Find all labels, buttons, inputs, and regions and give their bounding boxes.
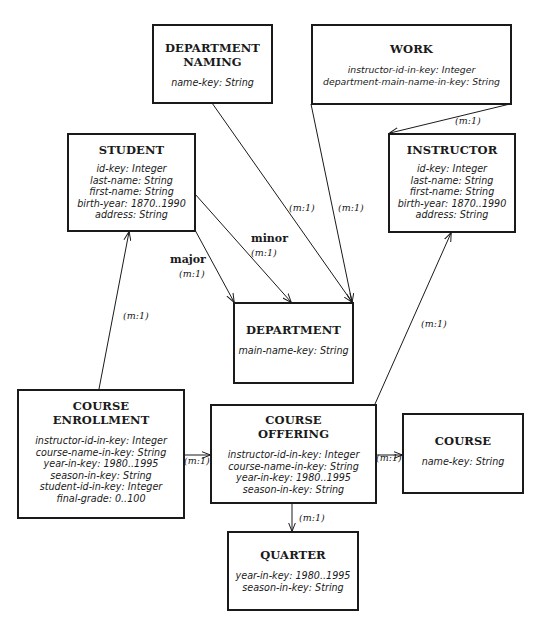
entity-attributes: name-key: String <box>154 77 271 89</box>
attribute: year-in-key: 1980..1995 <box>19 458 183 470</box>
deptnaming-to-department-arrow <box>212 103 352 302</box>
entity-department[interactable]: DEPARTMENT main-name-key: String <box>233 302 354 384</box>
attribute: first-name: String <box>390 186 514 198</box>
entity-title: COURSE OFFERING <box>212 413 375 441</box>
attribute: year-in-key: 1980..1995 <box>229 570 357 582</box>
attribute: birth-year: 1870..1990 <box>69 198 194 210</box>
entity-attributes: id-key: Integer last-name: String first-… <box>390 163 514 221</box>
attribute: instructor-id-in-key: Integer <box>212 449 375 461</box>
entity-course-offering[interactable]: COURSE OFFERING instructor-id-in-key: In… <box>210 404 377 504</box>
cardinality-label: (m:1) <box>455 115 481 126</box>
attribute: last-name: String <box>390 175 514 187</box>
cardinality-label: (m:1) <box>289 202 315 213</box>
entity-title: COURSE ENROLLMENT <box>19 399 183 427</box>
student-major-arrow <box>195 230 234 302</box>
cardinality-label: (m:1) <box>299 512 325 523</box>
attribute: year-in-key: 1980..1995 <box>212 472 375 484</box>
entity-title: DEPARTMENT <box>235 323 352 337</box>
work-to-instructor-arrow <box>390 104 510 133</box>
cardinality-label: (m:1) <box>123 310 149 321</box>
entity-work[interactable]: WORK instructor-id-in-key: Integer depar… <box>311 24 512 105</box>
cardinality-label: (m:1) <box>251 247 277 258</box>
attribute: name-key: String <box>404 456 522 468</box>
entity-attributes: name-key: String <box>404 456 522 468</box>
attribute: season-in-key: String <box>212 484 375 496</box>
attribute: last-name: String <box>69 175 194 187</box>
entity-course-enrollment[interactable]: COURSE ENROLLMENT instructor-id-in-key: … <box>17 389 185 519</box>
entity-course[interactable]: COURSE name-key: String <box>402 413 524 494</box>
entity-title: COURSE <box>404 434 522 448</box>
entity-student[interactable]: STUDENT id-key: Integer last-name: Strin… <box>67 133 196 232</box>
entity-title: STUDENT <box>69 143 194 157</box>
entity-department-naming[interactable]: DEPARTMENT NAMING name-key: String <box>152 24 273 104</box>
cardinality-label: (m:1) <box>421 318 447 329</box>
entity-title: WORK <box>313 42 510 56</box>
attribute: instructor-id-in-key: Integer <box>19 435 183 447</box>
entity-attributes: instructor-id-in-key: Integer department… <box>313 64 510 87</box>
attribute: course-name-in-key: String <box>212 461 375 473</box>
attribute: address: String <box>390 209 514 221</box>
cardinality-label: (m:1) <box>376 452 402 463</box>
cardinality-label: (m:1) <box>338 202 364 213</box>
entity-title: DEPARTMENT NAMING <box>154 41 271 69</box>
entity-attributes: id-key: Integer last-name: String first-… <box>69 163 194 221</box>
cardinality-label: (m:1) <box>179 268 205 279</box>
attribute: student-id-in-key: Integer <box>19 481 183 493</box>
attribute: final-grade: 0..100 <box>19 493 183 505</box>
attribute: first-name: String <box>69 186 194 198</box>
entity-quarter[interactable]: QUARTER year-in-key: 1980..1995 season-i… <box>227 531 359 611</box>
role-label-major: major <box>170 254 206 266</box>
attribute: id-key: Integer <box>390 163 514 175</box>
attribute: birth-year: 1870..1990 <box>390 198 514 210</box>
attribute: id-key: Integer <box>69 163 194 175</box>
entity-attributes: year-in-key: 1980..1995 season-in-key: S… <box>229 570 357 593</box>
attribute: season-in-key: String <box>19 470 183 482</box>
entity-title: QUARTER <box>229 548 357 562</box>
attribute: course-name-in-key: String <box>19 447 183 459</box>
attribute: season-in-key: String <box>229 582 357 594</box>
attribute: address: String <box>69 209 194 221</box>
entity-attributes: main-name-key: String <box>235 345 352 357</box>
entity-attributes: instructor-id-in-key: Integer course-nam… <box>19 435 183 505</box>
attribute: instructor-id-in-key: Integer <box>313 64 510 76</box>
entity-instructor[interactable]: INSTRUCTOR id-key: Integer last-name: St… <box>388 133 516 233</box>
entity-title: INSTRUCTOR <box>390 143 514 157</box>
attribute: department-main-name-in-key: String <box>313 76 510 88</box>
entity-attributes: instructor-id-in-key: Integer course-nam… <box>212 449 375 495</box>
cardinality-label: (m:1) <box>184 455 210 466</box>
attribute: main-name-key: String <box>235 345 352 357</box>
role-label-minor: minor <box>251 233 288 245</box>
attribute: name-key: String <box>154 77 271 89</box>
